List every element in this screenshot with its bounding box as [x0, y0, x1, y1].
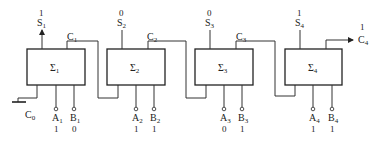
adder-stage-1: Σ1 1 S1 C1 C0 A1 1 B1 0	[12, 8, 118, 134]
sum-label-4: S4	[295, 17, 305, 30]
b-value-3: 1	[240, 124, 245, 134]
a-value-1: 1	[54, 124, 59, 134]
ripple-adder-diagram: Σ1 1 S1 C1 C0 A1 1 B1 0 Σ2 0 S2 C2 A2 1	[0, 0, 378, 143]
a-input-terminal-2	[134, 107, 138, 111]
b-value-4: 1	[330, 124, 335, 134]
carry-label-2: C2	[147, 31, 158, 44]
sum-label-3: S3	[205, 17, 215, 30]
a-value-2: 1	[134, 124, 139, 134]
sum-label-1: S1	[37, 17, 47, 30]
b-input-terminal-2	[152, 107, 156, 111]
b-value-1: 0	[72, 124, 77, 134]
a-input-terminal-3	[222, 107, 226, 111]
sum-label-2: S2	[117, 17, 127, 30]
a-value-4: 1	[311, 124, 316, 134]
carry-out-label: C4	[358, 34, 369, 47]
carry-in-label: C0	[25, 109, 36, 122]
b-input-terminal-3	[240, 107, 244, 111]
b-input-terminal-4	[330, 107, 334, 111]
carry-out-wire	[326, 40, 353, 49]
b-input-terminal-1	[72, 107, 76, 111]
carry-label-1: C1	[67, 31, 78, 44]
b-value-2: 1	[152, 124, 157, 134]
carry-label-3: C3	[236, 31, 247, 44]
adder-stage-2: Σ2 0 S2 C2 A2 1 B2 1	[107, 8, 206, 134]
a-value-3: 0	[222, 124, 227, 134]
a-input-terminal-1	[54, 107, 58, 111]
carry-out-value: 1	[360, 22, 365, 32]
adder-stage-3: Σ3 0 S3 C3 A3 0 B3 1	[195, 8, 295, 134]
carry-in-wire	[18, 85, 37, 102]
a-input-terminal-4	[311, 107, 315, 111]
diagram-svg: Σ1 1 S1 C1 C0 A1 1 B1 0 Σ2 0 S2 C2 A2 1	[0, 0, 378, 143]
adder-stage-4: Σ4 1 S4 1 C4 A4 1 B4 1	[285, 8, 369, 134]
